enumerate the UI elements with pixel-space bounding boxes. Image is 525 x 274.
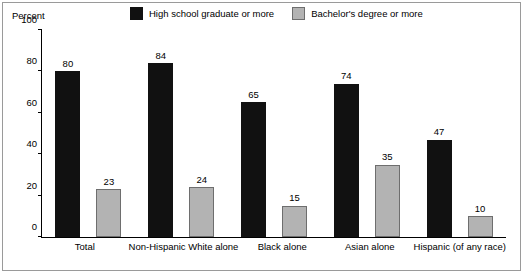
bar-value-label: 74 (341, 71, 352, 81)
y-tick-label: 40 (26, 138, 42, 149)
bar-value-label: 15 (289, 193, 300, 203)
bar-value-label: 80 (63, 59, 74, 69)
bar-high-school (427, 140, 452, 237)
bar-bachelors (282, 206, 307, 237)
chart-legend: High school graduate or more Bachelor's … (130, 7, 423, 20)
bar-value-label: 23 (104, 177, 115, 187)
bar-wrap: 10 (468, 30, 493, 237)
legend-label-bachelors: Bachelor's degree or more (311, 8, 423, 19)
bar-high-school (55, 71, 80, 237)
bar-value-label: 24 (196, 175, 207, 185)
bar-value-label: 35 (382, 152, 393, 162)
bar-wrap: 74 (334, 30, 359, 237)
legend-entry-high-school: High school graduate or more (130, 7, 274, 20)
bar-wrap: 84 (148, 30, 173, 237)
legend-entry-bachelors: Bachelor's degree or more (292, 7, 423, 20)
bar-wrap: 47 (427, 30, 452, 237)
x-axis-labels: Total Non-Hispanic White alone Black alo… (41, 241, 506, 252)
bar-value-label: 65 (248, 90, 259, 100)
bar-group: 47 10 (413, 30, 506, 237)
legend-swatch-bachelors (292, 7, 305, 20)
y-tick-label: 100 (21, 14, 42, 25)
bar-bachelors (189, 187, 214, 237)
bar-value-label: 84 (155, 51, 166, 61)
bar-groups: 80 23 84 24 (42, 30, 506, 237)
chart-container: High school graduate or more Bachelor's … (0, 0, 525, 274)
x-axis-label: Non-Hispanic White alone (129, 241, 239, 252)
bar-high-school (334, 84, 359, 237)
bar-group: 65 15 (228, 30, 321, 237)
bar-group: 80 23 (42, 30, 135, 237)
y-tick-label: 20 (26, 179, 42, 190)
y-tick-label: 80 (26, 55, 42, 66)
legend-label-high-school: High school graduate or more (149, 8, 274, 19)
bar-value-label: 10 (475, 204, 486, 214)
bar-wrap: 15 (282, 30, 307, 237)
bar-group: 84 24 (135, 30, 228, 237)
legend-swatch-high-school (130, 7, 143, 20)
bar-high-school (148, 63, 173, 237)
x-axis-label: Asian alone (326, 241, 414, 252)
bar-bachelors (468, 216, 493, 237)
bar-bachelors (96, 189, 121, 237)
x-axis-label: Black alone (238, 241, 326, 252)
y-tick-label: 0 (32, 221, 42, 232)
bar-bachelors (375, 165, 400, 237)
bar-wrap: 35 (375, 30, 400, 237)
bar-wrap: 80 (55, 30, 80, 237)
x-axis-label: Total (41, 241, 129, 252)
bar-wrap: 24 (189, 30, 214, 237)
x-axis-label: Hispanic (of any race) (414, 241, 506, 252)
bar-value-label: 47 (434, 127, 445, 137)
plot-area: 0 20 40 60 80 100 80 23 (41, 30, 506, 238)
bar-group: 74 35 (320, 30, 413, 237)
bar-high-school (241, 102, 266, 237)
y-tick-label: 60 (26, 96, 42, 107)
bar-wrap: 65 (241, 30, 266, 237)
bar-wrap: 23 (96, 30, 121, 237)
